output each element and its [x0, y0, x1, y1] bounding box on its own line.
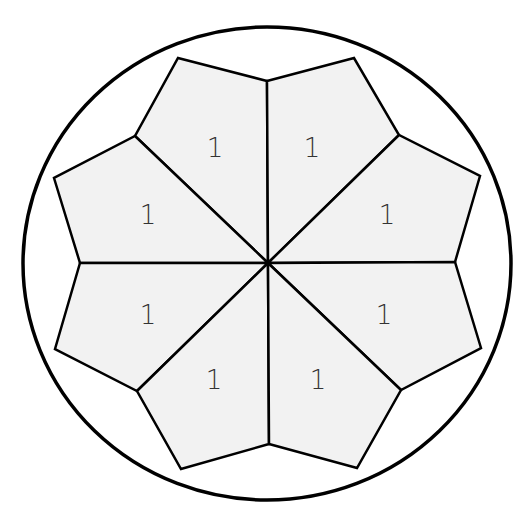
- petal-label: 1: [310, 365, 327, 395]
- fraction-wheel-diagram: 1 1 1 1 1 1 1 1: [0, 0, 526, 520]
- petal-label: 1: [304, 133, 321, 163]
- petal-label: 1: [379, 200, 396, 230]
- petal-label: 1: [207, 133, 224, 163]
- petal-label: 1: [376, 300, 393, 330]
- center-point: [265, 260, 271, 266]
- petal-label: 1: [206, 365, 223, 395]
- petal-label: 1: [140, 200, 157, 230]
- petal-label: 1: [140, 300, 157, 330]
